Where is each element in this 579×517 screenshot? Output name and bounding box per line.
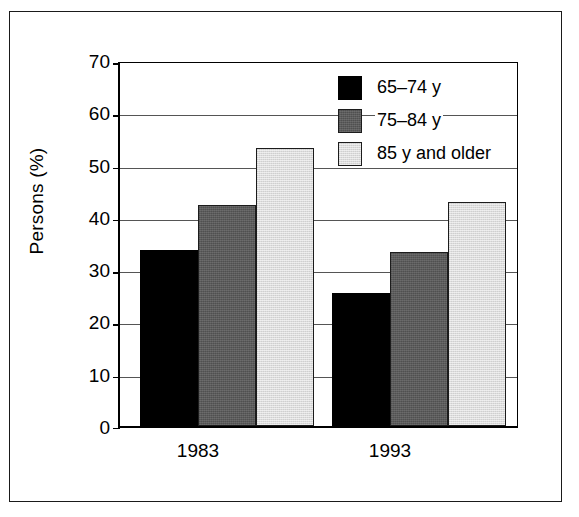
- legend-label-85-and-older: 85 y and older: [375, 143, 493, 164]
- legend-label-65-74y: 65–74 y: [375, 77, 443, 98]
- y-tick-label-20: 20: [70, 313, 110, 332]
- y-tick-label-40: 40: [70, 209, 110, 228]
- figure-canvas: Persons (%) 70 60 50 40 30 20 10 0: [0, 0, 579, 517]
- y-tick-label-10: 10: [70, 366, 110, 385]
- y-tick-mark-40: [113, 220, 120, 222]
- bar-1993-65-74y[interactable]: [332, 293, 390, 426]
- legend: 65–74 y 75–84 y 85 y and older: [338, 71, 513, 170]
- bar-1983-65-74y[interactable]: [140, 250, 198, 426]
- bar-1983-75-84y[interactable]: [198, 205, 256, 426]
- legend-swatch-black: [338, 76, 362, 100]
- bar-1993-75-84y[interactable]: [390, 252, 448, 426]
- y-tick-mark-20: [113, 324, 120, 326]
- legend-entry-85-and-older[interactable]: 85 y and older: [338, 137, 513, 170]
- y-tick-mark-30: [113, 272, 120, 274]
- legend-swatch-dark-gray: [338, 109, 362, 133]
- y-tick-mark-60: [113, 115, 120, 117]
- y-tick-mark-70: [113, 63, 120, 65]
- legend-swatch-light-gray: [338, 142, 362, 166]
- y-tick-label-30: 30: [70, 261, 110, 280]
- y-tick-label-70: 70: [70, 52, 110, 71]
- plot-area: 65–74 y 75–84 y 85 y and older: [118, 62, 518, 428]
- y-axis-title: Persons (%): [26, 131, 48, 271]
- bar-1983-85-and-older[interactable]: [256, 148, 314, 426]
- y-tick-mark-50: [113, 168, 120, 170]
- x-tick-label-1993: 1993: [330, 440, 450, 462]
- y-tick-label-50: 50: [70, 157, 110, 176]
- y-tick-label-0: 0: [70, 418, 110, 437]
- legend-label-75-84y: 75–84 y: [375, 110, 443, 131]
- y-tick-label-60: 60: [70, 104, 110, 123]
- legend-entry-75-84y[interactable]: 75–84 y: [338, 104, 513, 137]
- bar-1993-85-and-older[interactable]: [448, 202, 506, 426]
- x-tick-label-1983: 1983: [138, 440, 258, 462]
- y-tick-mark-0: [113, 428, 120, 430]
- legend-entry-65-74y[interactable]: 65–74 y: [338, 71, 513, 104]
- y-axis-tick-labels: 70 60 50 40 30 20 10 0: [66, 62, 110, 428]
- y-tick-mark-10: [113, 377, 120, 379]
